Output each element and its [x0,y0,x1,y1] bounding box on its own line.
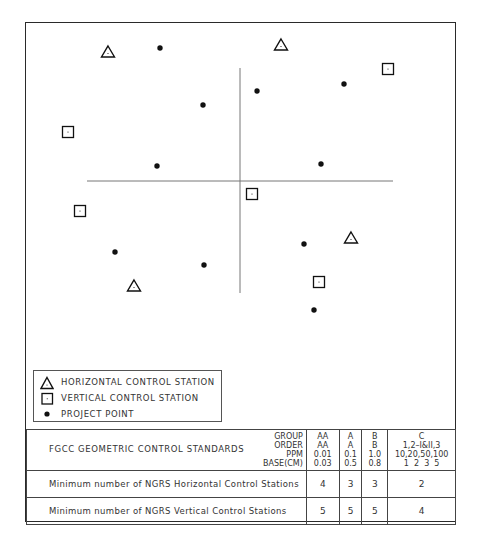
project-point-dot-icon [311,307,316,312]
table-cell: 3 [339,471,362,498]
table-title-cell: FGCC GEOMETRIC CONTROL STANDARDS GROUP O… [27,430,307,471]
station-center-icon [387,68,388,69]
header-keys: GROUP ORDER PPM BASE(CM) [263,432,303,468]
dot-icon [40,408,54,422]
ppm: 10,20,50,100 [388,450,455,459]
key-base: BASE(CM) [263,459,303,468]
base: 0.8 [362,459,387,468]
key-ppm: PPM [263,450,303,459]
row-label: Minimum number of NGRS Horizontal Contro… [27,471,307,498]
project-point-dot-icon [341,81,346,86]
key-group: GROUP [263,432,303,441]
horizontal-control-station-triangle-icon [275,39,288,50]
legend-label: PROJECT POINT [61,409,134,419]
table-cell: 5 [362,498,388,525]
station-center-icon [133,287,134,288]
base: 0.5 [340,459,362,468]
project-point-dot-icon [154,163,159,168]
table-cell: 2 [388,471,456,498]
project-point-dot-icon [200,102,205,107]
column-header-c: C 1,2–I&II,3 10,20,50,100 1 2 3 5 [388,430,456,471]
table-cell: 4 [306,471,339,498]
order: 1,2–I&II,3 [388,441,455,450]
table-cell: 3 [362,471,388,498]
station-center-icon [107,53,108,54]
column-header-a: A A 0.1 0.5 [339,430,362,471]
triangle-icon [40,376,54,390]
project-point-dot-icon [201,262,206,267]
ppm: 0.01 [307,450,339,459]
standards-table: FGCC GEOMETRIC CONTROL STANDARDS GROUP O… [26,429,456,525]
group: B [362,432,387,441]
project-point-dot-icon [254,88,259,93]
order: AA [307,441,339,450]
station-center-icon [79,210,80,211]
column-header-aa: AA AA 0.01 0.03 [306,430,339,471]
row-label: Minimum number of NGRS Vertical Control … [27,498,307,525]
station-center-icon [318,281,319,282]
table-cell: 4 [388,498,456,525]
project-point-dot-icon [112,249,117,254]
table-cell: 5 [306,498,339,525]
base: 0.03 [307,459,339,468]
network-plot [0,0,480,430]
horizontal-control-station-triangle-icon [102,46,115,57]
project-point-dot-icon [157,45,162,50]
column-header-b: B B 1.0 0.8 [362,430,388,471]
square-dot-icon [40,392,54,406]
key-order: ORDER [263,441,303,450]
table-header-row: FGCC GEOMETRIC CONTROL STANDARDS GROUP O… [27,430,456,471]
legend-label: VERTICAL CONTROL STATION [61,393,199,403]
project-point-dot-icon [318,161,323,166]
ppm: 0.1 [340,450,362,459]
horizontal-control-station-triangle-icon [345,232,358,243]
station-center-icon [280,46,281,47]
station-center-icon [350,239,351,240]
legend-item-horizontal: HORIZONTAL CONTROL STATION [34,376,221,392]
table-cell: 5 [339,498,362,525]
table-title: FGCC GEOMETRIC CONTROL STANDARDS [49,444,244,454]
legend-label: HORIZONTAL CONTROL STATION [61,377,215,387]
legend-item-vertical: VERTICAL CONTROL STATION [34,392,221,408]
group: AA [307,432,339,441]
horizontal-control-station-triangle-icon [128,280,141,291]
station-center-icon [251,193,252,194]
table-row: Minimum number of NGRS Horizontal Contro… [27,471,456,498]
legend-item-project: PROJECT POINT [34,408,221,424]
base: 1 2 3 5 [388,459,455,468]
table-row: Minimum number of NGRS Vertical Control … [27,498,456,525]
group: C [388,432,455,441]
group: A [340,432,362,441]
station-center-icon [67,131,68,132]
order: A [340,441,362,450]
order: B [362,441,387,450]
ppm: 1.0 [362,450,387,459]
legend: HORIZONTAL CONTROL STATION VERTICAL CONT… [33,370,222,422]
project-point-dot-icon [301,241,306,246]
